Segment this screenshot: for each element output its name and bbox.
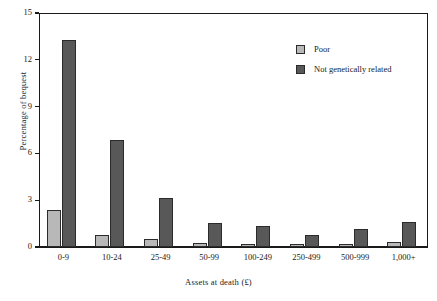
bar-group — [47, 13, 76, 247]
legend: Poor Not genetically related — [296, 44, 428, 84]
bar-poor — [241, 244, 255, 247]
bar-group — [144, 13, 173, 247]
legend-label-not-genetically-related: Not genetically related — [314, 64, 391, 75]
bar-poor — [387, 242, 401, 247]
bar-not-genetically-related — [256, 226, 270, 247]
bar-not-genetically-related — [159, 198, 173, 247]
y-tick-label: 9 — [28, 101, 32, 112]
legend-item-not-genetically-related: Not genetically related — [296, 64, 428, 75]
y-tick-label: 0 — [28, 241, 32, 252]
bar-poor — [290, 244, 304, 247]
legend-label-poor: Poor — [314, 44, 330, 55]
y-tick-label: 15 — [24, 7, 33, 18]
bar-poor — [47, 210, 61, 247]
y-tick-label: 6 — [28, 147, 32, 158]
bar-poor — [144, 239, 158, 247]
bar-not-genetically-related — [110, 140, 124, 247]
bar-poor — [95, 235, 109, 247]
bar-group — [95, 13, 124, 247]
y-tick-label: 12 — [24, 54, 33, 65]
y-axis-label: Percentage of bequest — [18, 26, 28, 196]
bar-poor — [193, 243, 207, 247]
bar-not-genetically-related — [402, 222, 416, 247]
bar-not-genetically-related — [305, 235, 319, 247]
bar-poor — [339, 244, 353, 247]
bar-not-genetically-related — [354, 229, 368, 247]
x-tick-label: 1,000+ — [373, 252, 434, 262]
bar-chart-figure: Percentage of bequest 03691215 0-910-242… — [0, 0, 437, 301]
legend-swatch-not-genetically-related — [296, 65, 305, 74]
bar-group — [193, 13, 222, 247]
x-axis-label: Assets at death (£) — [0, 277, 437, 287]
y-tick-label: 3 — [28, 194, 32, 205]
legend-item-poor: Poor — [296, 44, 428, 55]
bar-group — [241, 13, 270, 247]
bar-not-genetically-related — [208, 223, 222, 247]
bar-not-genetically-related — [62, 40, 76, 247]
legend-swatch-poor — [296, 45, 305, 54]
